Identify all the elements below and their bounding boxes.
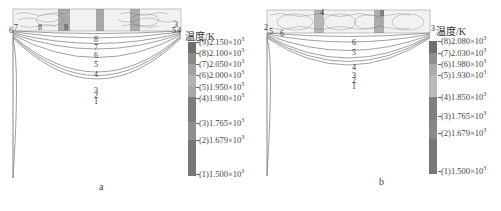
- colorbar-tick: (2)1.679×103: [199, 135, 244, 145]
- colorbar-tick: (9)2.150×103: [199, 37, 244, 47]
- colorbar-segment: [429, 121, 437, 139]
- colorbar-segment: [188, 140, 196, 176]
- colorbar-segment: [188, 42, 196, 53]
- panel-a: 8 7 6 5 4 3 2 1 6 7 8 8 3 5 4 温度/K (9)2.…: [0, 0, 250, 211]
- colorbar-tick: (1)1.500×103: [199, 169, 244, 179]
- edge-label: 4: [320, 8, 324, 17]
- panel-caption-a: a: [99, 181, 103, 192]
- contour-label: 5: [352, 48, 356, 57]
- colorbar-tick: (3)1.765×103: [199, 118, 244, 128]
- edge-label: 6: [280, 29, 284, 38]
- isotherms-b: [267, 33, 430, 176]
- colorbar-segment: [188, 97, 196, 122]
- colorbar-segment: [429, 53, 437, 64]
- colorbar-segment: [429, 75, 437, 97]
- colorbar-tick: (1)1.500×103: [441, 166, 486, 176]
- edge-label: 8: [38, 23, 42, 32]
- colorbar-tick: (6)2.000×103: [199, 70, 244, 80]
- colorbar-tick: (2)1.679×103: [441, 128, 486, 138]
- contour-label: 6: [94, 51, 98, 60]
- edge-label: 6: [9, 26, 13, 35]
- edge-label: 5: [269, 27, 273, 36]
- edge-label: 8: [380, 9, 384, 18]
- colorbar-tick: (3)1.765×103: [441, 111, 486, 121]
- edge-label: 7: [14, 23, 18, 32]
- colorbar-segment: [429, 139, 437, 174]
- edge-label: 5: [172, 26, 176, 35]
- colorbar-a: [188, 42, 196, 176]
- colorbar-tick: (7)2.050×103: [199, 59, 244, 69]
- colorbar-segment: [429, 64, 437, 75]
- colorbar-tick: (8)2.080×103: [441, 36, 486, 46]
- contour-label: 1: [94, 97, 98, 106]
- contour-label: 5: [94, 60, 98, 69]
- edge-label: 3: [431, 24, 435, 33]
- colorbar-segment: [188, 75, 196, 86]
- contour-label: 6: [352, 38, 356, 47]
- colorbar-segment: [429, 97, 437, 121]
- colorbar-tick: (5)1.930×103: [441, 70, 486, 80]
- colorbar-segment: [188, 53, 196, 64]
- colorbar-segment: [188, 64, 196, 75]
- panel-caption-b: b: [379, 176, 384, 187]
- colorbar-tick: (6)1.980×103: [441, 59, 486, 69]
- panel-b: 6 5 4 3 2 1 2 5 6 4 8 3 温度/K (8)2.080×10…: [250, 0, 501, 211]
- edge-label: 2: [264, 23, 268, 32]
- colorbar-segment: [188, 122, 196, 140]
- colorbar-tick: (5)1.950×103: [199, 82, 244, 92]
- edge-label: 8: [64, 23, 68, 32]
- colorbar-tick: (4)1.850×103: [441, 92, 486, 102]
- colorbar-segment: [429, 41, 437, 53]
- colorbar-tick: (7)2.030×103: [441, 48, 486, 58]
- colorbar-segment: [188, 86, 196, 97]
- edge-label: 4: [177, 26, 181, 35]
- colorbar-b: [429, 41, 437, 174]
- contour-label: 1: [352, 82, 356, 91]
- colorbar-tick: (8)2.100×103: [199, 48, 244, 58]
- contour-label: 4: [94, 70, 98, 79]
- colorbar-tick: (4)1.900×103: [199, 93, 244, 103]
